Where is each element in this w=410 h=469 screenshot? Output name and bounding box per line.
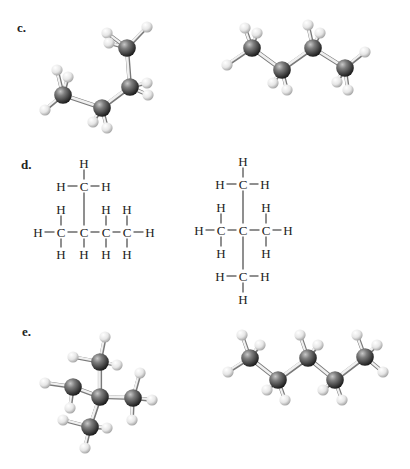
carbon-atom <box>243 39 261 57</box>
carbon-atom <box>118 39 136 57</box>
hydrogen-atom <box>312 339 323 350</box>
hydrogen-atom <box>294 329 305 340</box>
carbon-symbol: C <box>239 269 248 284</box>
hydrogen-symbol: H <box>122 247 131 262</box>
molecule-e-1 <box>39 331 157 453</box>
carbon-symbol: C <box>80 225 89 240</box>
hydrogen-atom <box>251 27 262 38</box>
hydrogen-symbol: H <box>260 269 269 284</box>
hydrogen-atom <box>254 339 265 350</box>
carbon-atom <box>356 348 374 366</box>
hydrogen-symbol: H <box>101 247 110 262</box>
hydrogen-atom <box>87 116 98 127</box>
carbon-symbol: C <box>239 177 248 192</box>
molecule-canvas: HHCHHHHHCCCCHHHHHHHCHHHHCCCHHHHCHH <box>0 0 410 469</box>
hydrogen-symbol: H <box>260 177 269 192</box>
carbon-symbol: C <box>239 223 248 238</box>
hydrogen-atom <box>103 37 114 48</box>
carbon-symbol: C <box>262 223 271 238</box>
hydrogen-atom <box>336 394 347 405</box>
carbon-symbol: C <box>102 225 111 240</box>
hydrogen-atom <box>371 339 382 350</box>
hydrogen-atom <box>39 377 50 388</box>
hydrogen-atom <box>267 77 278 88</box>
carbon-atom <box>91 388 109 406</box>
hydrogen-symbol: H <box>101 179 110 194</box>
carbon-atom <box>121 78 139 96</box>
carbon-atom <box>64 378 82 396</box>
hydrogen-atom <box>222 366 233 377</box>
hydrogen-atom <box>261 384 272 395</box>
hydrogen-symbol: H <box>122 202 131 217</box>
carbon-atom <box>81 418 99 436</box>
hydrogen-atom <box>64 402 75 413</box>
hydrogen-atom <box>39 104 50 115</box>
hydrogen-atom <box>142 89 153 100</box>
molecule-c-2 <box>221 19 370 95</box>
carbon-atom <box>299 349 317 367</box>
hydrogen-atom <box>99 331 110 342</box>
hydrogen-symbol: H <box>56 247 65 262</box>
hydrogen-atom <box>57 414 68 425</box>
hydrogen-atom <box>236 329 247 340</box>
hydrogen-atom <box>314 27 325 38</box>
hydrogen-atom <box>79 442 90 453</box>
hydrogen-symbol: H <box>56 179 65 194</box>
hydrogen-atom <box>351 329 362 340</box>
hydrogen-atom <box>146 394 157 405</box>
carbon-atom <box>54 86 72 104</box>
molecule-d-2: HHCHHHHCCCHHHHCHH <box>194 154 292 307</box>
hydrogen-symbol: H <box>33 225 42 240</box>
molecule-c-1 <box>39 21 153 133</box>
hydrogen-atom <box>67 351 78 362</box>
hydrogen-atom <box>51 64 62 75</box>
carbon-atom <box>273 61 291 79</box>
hydrogen-symbol: H <box>101 202 110 217</box>
carbon-atom <box>304 39 322 57</box>
hydrogen-atom <box>302 19 313 30</box>
hydrogen-symbol: H <box>79 247 88 262</box>
hydrogen-atom <box>111 359 122 370</box>
hydrogen-atom <box>141 77 152 88</box>
hydrogen-atom <box>101 422 112 433</box>
carbon-symbol: C <box>57 225 66 240</box>
hydrogen-atom <box>101 122 112 133</box>
molecule-models: HHCHHHHHCCCCHHHHHHHCHHHHCCCHHHHCHH <box>33 19 388 453</box>
hydrogen-symbol: H <box>56 202 65 217</box>
hydrogen-atom <box>377 366 388 377</box>
hydrogen-symbol: H <box>215 177 224 192</box>
molecule-e-2 <box>222 329 388 405</box>
carbon-atom <box>91 353 109 371</box>
hydrogen-atom <box>239 22 250 33</box>
carbon-atom <box>93 99 111 117</box>
hydrogen-symbol: H <box>216 246 225 261</box>
carbon-atom <box>269 371 287 389</box>
carbon-atom <box>124 389 142 407</box>
carbon-symbol: C <box>80 179 89 194</box>
carbon-symbol: C <box>123 225 132 240</box>
hydrogen-atom <box>134 367 145 378</box>
hydrogen-symbol: H <box>215 269 224 284</box>
hydrogen-atom <box>281 84 292 95</box>
molecule-d-1: HHCHHHHHCCCCHHHHH <box>33 156 154 262</box>
hydrogen-atom <box>317 384 328 395</box>
carbon-symbol: C <box>217 223 226 238</box>
hydrogen-atom <box>342 84 353 95</box>
carbon-atom <box>241 349 259 367</box>
hydrogen-atom <box>279 394 290 405</box>
hydrogen-symbol: H <box>238 292 247 307</box>
hydrogen-atom <box>359 46 370 57</box>
hydrogen-atom <box>126 414 137 425</box>
hydrogen-atom <box>101 27 112 38</box>
carbon-atom <box>336 59 354 77</box>
hydrogen-symbol: H <box>216 200 225 215</box>
carbon-atom <box>326 371 344 389</box>
hydrogen-symbol: H <box>238 154 247 169</box>
hydrogen-symbol: H <box>145 225 154 240</box>
hydrogen-symbol: H <box>79 156 88 171</box>
hydrogen-symbol: H <box>283 223 292 238</box>
hydrogen-atom <box>141 21 152 32</box>
hydrogen-atom <box>62 71 73 82</box>
hydrogen-symbol: H <box>194 223 203 238</box>
hydrogen-symbol: H <box>261 246 270 261</box>
